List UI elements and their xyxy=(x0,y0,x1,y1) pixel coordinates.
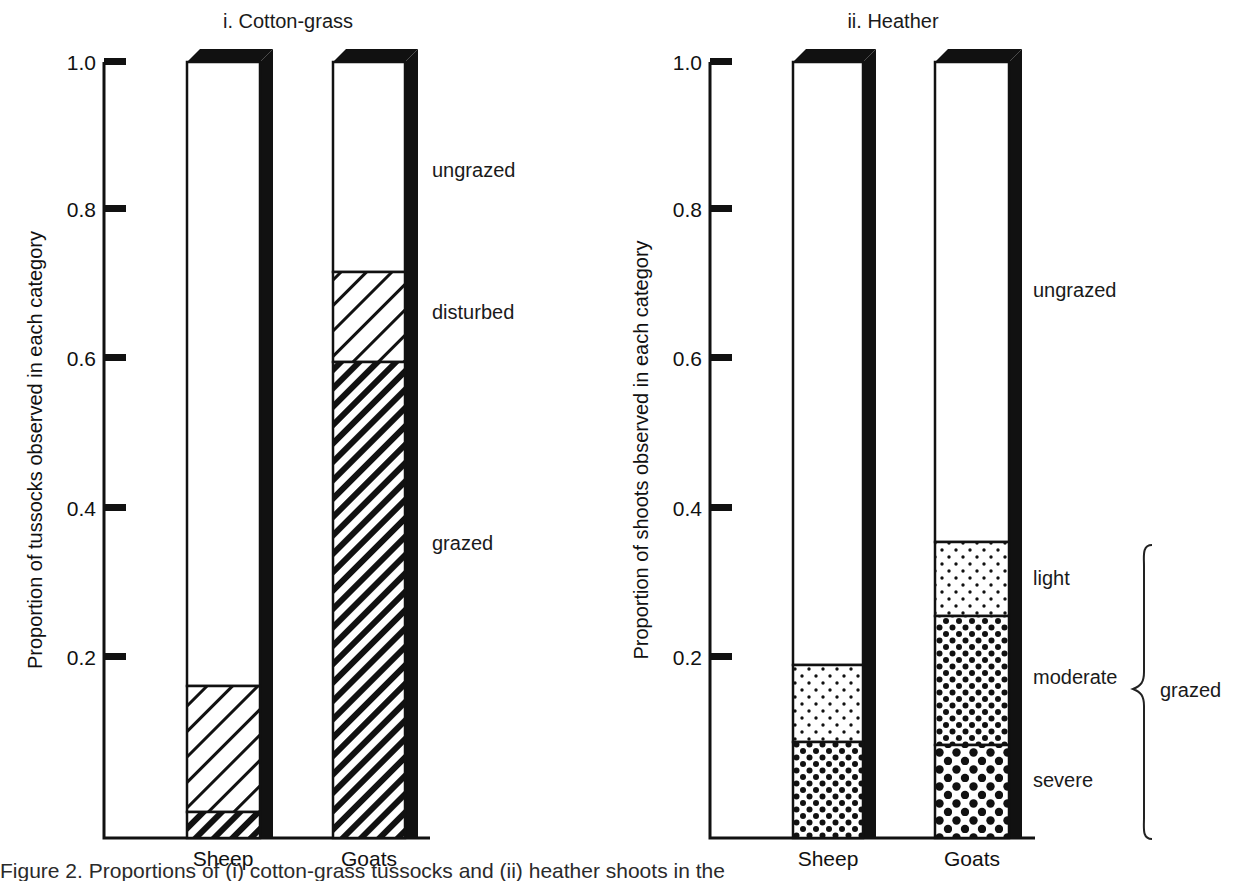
bar-top-face xyxy=(333,49,418,62)
tick-0.4 xyxy=(104,504,126,511)
category-label-sheep: Sheep xyxy=(798,847,859,870)
brace-label-grazed: grazed xyxy=(1160,679,1221,701)
segment-severe xyxy=(935,745,1009,838)
segment-label-ungrazed: ungrazed xyxy=(1033,279,1116,301)
segment-label-ungrazed: ungrazed xyxy=(432,159,515,181)
bar-heather-sheep xyxy=(793,49,876,838)
segment-grazed xyxy=(187,812,260,838)
tick-1.0 xyxy=(104,58,126,65)
bar-top-face xyxy=(187,49,273,62)
tick-0.6 xyxy=(710,354,732,361)
ytick-label-1.0: 1.0 xyxy=(673,51,702,74)
ytick-label-0.2: 0.2 xyxy=(67,646,96,669)
segment-label-disturbed: disturbed xyxy=(432,301,514,323)
tick-0.8 xyxy=(104,205,126,212)
y-ticks-heather xyxy=(710,58,732,660)
bar-right-face xyxy=(260,49,273,838)
segment-moderate xyxy=(935,616,1009,745)
segment-label-light: light xyxy=(1033,567,1070,589)
segment-ungrazed xyxy=(187,62,260,686)
figure-svg: i. Cotton-grass Proportion of tussocks o… xyxy=(0,0,1237,881)
ytick-label-0.6: 0.6 xyxy=(67,347,96,370)
segment-moderate xyxy=(793,665,863,742)
ytick-label-0.8: 0.8 xyxy=(67,198,96,221)
segment-severe xyxy=(793,742,863,838)
segment-ungrazed xyxy=(333,62,405,272)
figure-2-container: i. Cotton-grass Proportion of tussocks o… xyxy=(0,0,1237,881)
bar-top-face xyxy=(935,49,1022,62)
y-ticks-cotton-grass xyxy=(104,58,126,660)
ytick-label-0.2: 0.2 xyxy=(673,646,702,669)
tick-0.6 xyxy=(104,354,126,361)
panel-title-cotton-grass: i. Cotton-grass xyxy=(223,10,353,32)
bar-cotton-grass-sheep xyxy=(187,49,273,838)
segment-label-grazed: grazed xyxy=(432,532,493,554)
segment-disturbed xyxy=(333,272,405,362)
ytick-label-0.4: 0.4 xyxy=(67,497,97,520)
tick-0.8 xyxy=(710,205,732,212)
y-axis-title-cotton-grass: Proportion of tussocks observed in each … xyxy=(24,231,46,669)
segment-ungrazed xyxy=(793,62,863,665)
tick-0.4 xyxy=(710,504,732,511)
panel-title-heather: ii. Heather xyxy=(847,10,938,32)
segment-grazed xyxy=(333,362,405,838)
bar-right-face xyxy=(1009,49,1022,838)
segment-ungrazed xyxy=(935,62,1009,542)
ytick-label-1.0: 1.0 xyxy=(67,51,96,74)
segment-disturbed xyxy=(187,686,260,812)
segment-label-severe: severe xyxy=(1033,769,1093,791)
ytick-label-0.4: 0.4 xyxy=(673,497,703,520)
figure-caption: Figure 2. Proportions of (i) cotton-gras… xyxy=(0,859,725,881)
bar-right-face xyxy=(863,49,876,838)
y-axis-title-heather: Proportion of shoots observed in each ca… xyxy=(630,240,652,659)
panel-cotton-grass: i. Cotton-grass Proportion of tussocks o… xyxy=(24,10,515,870)
panel-heather: ii. Heather Proportion of shoots observe… xyxy=(630,10,1221,870)
tick-1.0 xyxy=(710,58,732,65)
bar-cotton-grass-goats xyxy=(333,49,418,838)
segment-light xyxy=(935,542,1009,616)
category-label-goats: Goats xyxy=(944,847,1000,870)
bar-heather-goats xyxy=(935,49,1022,838)
segment-label-moderate: moderate xyxy=(1033,666,1118,688)
tick-0.2 xyxy=(104,653,126,660)
ytick-label-0.6: 0.6 xyxy=(673,347,702,370)
bar-top-face xyxy=(793,49,876,62)
grazed-brace xyxy=(1133,545,1152,839)
bar-right-face xyxy=(405,49,418,838)
ytick-label-0.8: 0.8 xyxy=(673,198,702,221)
tick-0.2 xyxy=(710,653,732,660)
